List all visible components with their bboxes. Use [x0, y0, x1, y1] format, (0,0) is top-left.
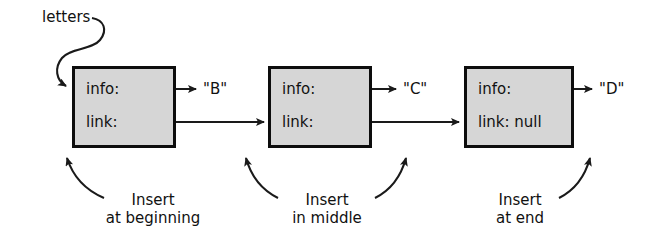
node-b-value: "B"	[203, 80, 227, 98]
caption-insert-at-beginning: Insert at beginning	[78, 191, 228, 228]
node-box-c	[268, 66, 372, 148]
node-c-link-label: link:	[282, 113, 314, 131]
node-b-link-label: link:	[86, 113, 118, 131]
node-d-info-label: info:	[478, 80, 511, 98]
caption-insert-at-beginning-line2: at beginning	[78, 209, 228, 227]
letters-label: letters	[42, 8, 90, 26]
caption-insert-at-end-line1: Insert	[474, 191, 566, 209]
node-box-d	[464, 66, 574, 148]
caption-insert-in-middle-line2: in middle	[268, 209, 386, 227]
caption-insert-at-end: Insert at end	[474, 191, 566, 228]
caption-insert-at-end-line2: at end	[474, 209, 566, 227]
caption-insert-in-middle-line1: Insert	[268, 191, 386, 209]
node-box-b	[72, 66, 176, 148]
node-c-info-label: info:	[282, 80, 315, 98]
node-d-link-label: link: null	[478, 113, 542, 131]
linked-list-diagram: letters info: link: "B" info: link: "C" …	[0, 0, 664, 242]
node-d-value: "D"	[599, 80, 624, 98]
caption-insert-at-beginning-line1: Insert	[78, 191, 228, 209]
node-b-info-label: info:	[86, 80, 119, 98]
node-c-value: "C"	[403, 80, 427, 98]
caption-insert-in-middle: Insert in middle	[268, 191, 386, 228]
